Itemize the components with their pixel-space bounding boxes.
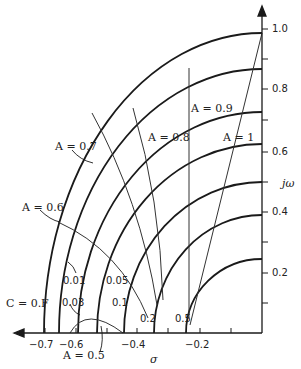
a-curve-label: A = 0.5 [63, 350, 105, 361]
sigma-arrow-icon [14, 329, 24, 337]
y-tick-label: 1.0 [272, 24, 288, 34]
x-tick-label: −0.4 [121, 340, 145, 350]
a-curve-label: A = 0.6 [22, 202, 64, 213]
a-curve-label: A = 0.9 [191, 103, 233, 114]
x-tick-label: −0.2 [185, 340, 209, 350]
c-curve-label: 0.2 [140, 314, 156, 324]
a-curve-label: A = 0.8 [148, 132, 190, 143]
c-curve-0.2 [154, 215, 262, 333]
jw-axis-label: jω [282, 178, 294, 189]
sigma-axis-label: σ [150, 354, 158, 365]
y-ticks [262, 29, 268, 303]
y-tick-label: 0.4 [272, 207, 288, 217]
y-tick-label: 0.2 [272, 268, 288, 278]
a-curve-1 [190, 33, 262, 325]
c-curve-label: 0.01 [63, 276, 85, 286]
a-curve-label: A = 1 [223, 132, 254, 143]
a-curves [58, 33, 262, 333]
c-curves [44, 33, 262, 333]
jw-arrow-icon [258, 6, 266, 16]
c-curve-label: 0.05 [106, 276, 128, 286]
y-tick-label: 0.8 [272, 84, 288, 94]
x-tick-label: −0.7 [29, 340, 53, 350]
y-tick-label: 0.6 [272, 147, 288, 157]
leader-lines [40, 150, 102, 352]
a-curve-label: A = 0.7 [55, 141, 97, 152]
c-curve-label: C = 0.F [6, 298, 49, 309]
c-curve-0 [44, 33, 262, 333]
c-curve-label: 0.1 [112, 298, 128, 308]
s-plane-diagram: −0.7 −0.6 −0.4 −0.2 0.2 0.4 0.6 0.8 1.0 … [0, 0, 301, 369]
c-curve-label: 0.5 [175, 314, 191, 324]
leader-001 [68, 262, 76, 273]
c-curve-label: 0.03 [62, 298, 84, 308]
